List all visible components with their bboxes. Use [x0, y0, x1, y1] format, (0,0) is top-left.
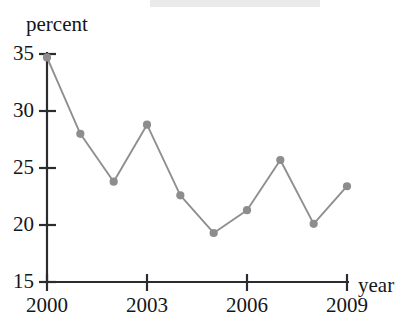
x-tick-label-2000: 2000: [16, 295, 78, 316]
data-point-2009: [343, 182, 351, 190]
line-chart: percent year 35 30 25 20 15 2000 2003 20…: [0, 0, 414, 325]
y-tick-label-20: 20: [0, 214, 34, 235]
data-point-2002: [110, 178, 118, 186]
y-tick-label-15: 15: [0, 271, 34, 292]
x-tick-label-2009: 2009: [316, 295, 378, 316]
data-point-2004: [176, 191, 184, 199]
data-point-2006: [243, 206, 251, 214]
data-series-line: [47, 57, 347, 233]
data-point-2003: [143, 121, 151, 129]
data-point-2005: [210, 229, 218, 237]
x-tick-label-2003: 2003: [116, 295, 178, 316]
y-axis-title: percent: [26, 14, 88, 35]
chart-plot-area: [0, 0, 414, 325]
x-tick-label-2006: 2006: [216, 295, 278, 316]
data-point-2000: [43, 53, 51, 61]
y-tick-label-30: 30: [0, 100, 34, 121]
data-point-2008: [310, 220, 318, 228]
y-tick-label-25: 25: [0, 157, 34, 178]
y-tick-label-35: 35: [0, 43, 34, 64]
data-point-2001: [76, 130, 84, 138]
data-point-2007: [276, 156, 284, 164]
